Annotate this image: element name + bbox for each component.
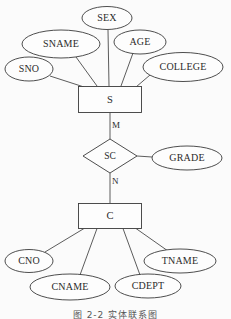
connector-s-age <box>121 53 133 86</box>
entity-student-label: S <box>107 94 113 105</box>
attribute-grade[interactable]: GRADE <box>152 146 222 170</box>
connector-s-college <box>136 75 150 87</box>
connector-s-sex <box>108 30 109 86</box>
attribute-cdept-label: CDEPT <box>132 280 165 291</box>
attribute-cno-label: CNO <box>18 255 40 266</box>
connector-c-tname <box>136 229 168 252</box>
figure-canvas: S M SC N C SEX <box>0 0 231 319</box>
entity-course[interactable]: C <box>79 204 142 229</box>
attribute-sno-label: SNO <box>19 63 40 74</box>
figure-caption: 图 2-2 实体联系图 <box>0 308 231 319</box>
attribute-cname[interactable]: CNAME <box>30 274 110 300</box>
cardinality-label-n: N <box>112 176 119 186</box>
attribute-sname-label: SNAME <box>43 38 79 49</box>
attribute-sex[interactable]: SEX <box>82 7 132 30</box>
connector-group-course-attributes <box>45 229 168 276</box>
attribute-cno[interactable]: CNO <box>5 250 53 273</box>
attribute-age-label: AGE <box>129 36 150 47</box>
attribute-sno[interactable]: SNO <box>5 57 53 81</box>
relationship-sc-label: SC <box>104 151 116 161</box>
attribute-grade-label: GRADE <box>169 152 204 163</box>
connector-sc-grade <box>137 156 152 157</box>
entity-course-label: C <box>106 210 113 221</box>
attribute-tname-label: TNAME <box>162 255 199 266</box>
attribute-cname-label: CNAME <box>51 281 88 292</box>
connector-s-sno <box>50 76 84 87</box>
er-diagram: S M SC N C SEX <box>0 0 231 319</box>
attribute-college-label: COLLEGE <box>160 61 207 72</box>
cardinality-label-m: M <box>112 120 120 130</box>
attribute-age[interactable]: AGE <box>114 30 166 54</box>
attribute-cdept[interactable]: CDEPT <box>115 274 181 298</box>
connector-c-cno <box>45 229 84 253</box>
relationship-sc[interactable]: SC <box>83 139 137 173</box>
connector-s-sname <box>76 57 97 86</box>
attribute-college[interactable]: COLLEGE <box>143 53 223 82</box>
attribute-sname[interactable]: SNAME <box>22 30 100 58</box>
entity-student[interactable]: S <box>79 87 142 113</box>
connector-c-cname <box>80 229 97 276</box>
attribute-sex-label: SEX <box>97 12 117 23</box>
attribute-tname[interactable]: TNAME <box>144 249 216 273</box>
connector-c-cdept <box>123 229 140 276</box>
